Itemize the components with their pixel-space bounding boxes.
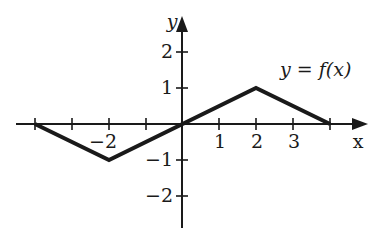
- x-axis-label: x: [353, 130, 364, 152]
- y-tick-label: −2: [145, 184, 173, 206]
- x-tick-label: 3: [288, 130, 300, 152]
- y-tick-label: 2: [161, 40, 173, 62]
- function-annotation: y = f(x): [279, 58, 351, 80]
- y-axis-label: y: [166, 10, 178, 32]
- x-tick-label: 2: [251, 130, 263, 152]
- y-axis-arrow-icon: [176, 16, 188, 32]
- y-tick-label: 1: [161, 76, 173, 98]
- x-tick-label: −2: [89, 130, 117, 152]
- x-tick-label: 1: [214, 130, 226, 152]
- x-axis-arrow-icon: [352, 118, 368, 130]
- function-graph: −2 1 2 3 2 1 −1 −2 x y y = f(x): [0, 0, 381, 231]
- y-tick-label: −1: [145, 148, 173, 170]
